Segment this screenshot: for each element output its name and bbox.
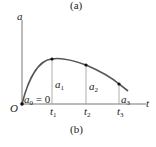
t2-label: t2 <box>84 106 91 119</box>
x-axis-label: t <box>146 98 149 109</box>
caption-bottom: (b) <box>70 124 83 135</box>
a1-label: a1 <box>55 79 64 92</box>
point-3 <box>117 82 120 85</box>
t3-label: t3 <box>117 106 124 119</box>
y-axis-label: a <box>17 11 23 22</box>
a2-label: a2 <box>89 81 98 94</box>
origin-label: O <box>10 103 18 114</box>
point-1 <box>50 57 53 60</box>
initial-value-label: a0 = 0 <box>24 94 50 107</box>
t1-label: t1 <box>50 106 57 119</box>
point-2 <box>84 63 87 66</box>
